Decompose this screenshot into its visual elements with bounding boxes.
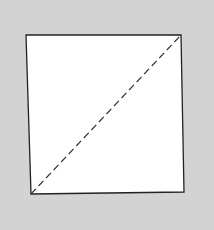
diagram-svg [0, 0, 214, 230]
square-outline [26, 35, 184, 194]
diagram-canvas [0, 0, 214, 230]
